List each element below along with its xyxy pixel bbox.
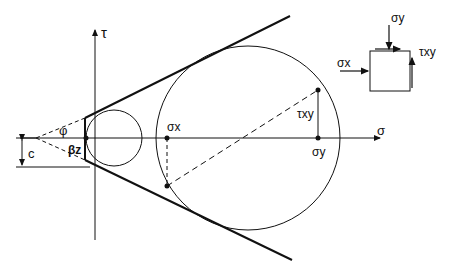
cohesion-label: c — [28, 146, 35, 161]
tau-axis-label: τ — [101, 24, 107, 41]
sigma-x-label: σx — [167, 120, 180, 134]
envelope-upper — [85, 16, 290, 118]
phi-label: φ — [59, 123, 67, 138]
envelope-lower — [85, 160, 292, 260]
sigma-y-label: σy — [312, 145, 325, 159]
element-sigma-y-label: σy — [391, 11, 404, 25]
tau-xy-label: τxy — [297, 107, 314, 121]
stress-element — [370, 51, 410, 91]
mohr-diagram: τ σ φ βz c σx σy τxy σy σx τxy — [0, 0, 450, 275]
element-sigma-x-label: σx — [337, 56, 350, 70]
element-tau-xy-label: τxy — [419, 45, 436, 59]
sigma-axis-label: σ — [377, 123, 385, 138]
beta-label: βz — [68, 143, 81, 157]
